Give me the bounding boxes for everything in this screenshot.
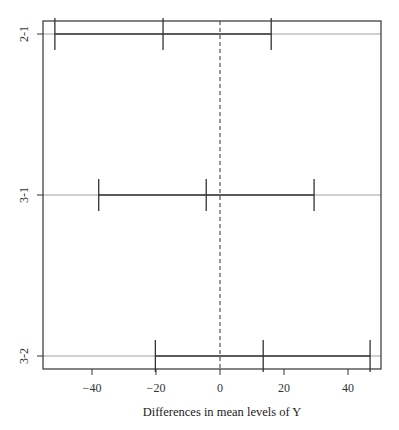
interval-3-2 — [155, 340, 370, 372]
x-axis: −40−2002040 — [83, 369, 354, 395]
y-axis: 2-13-13-2 — [17, 26, 43, 364]
x-axis-title: Differences in mean levels of Y — [143, 405, 302, 419]
x-tick-label: −40 — [83, 381, 102, 395]
y-tick-label: 3-1 — [17, 187, 31, 203]
interval-2-1 — [55, 18, 271, 50]
x-tick-label: −20 — [147, 381, 166, 395]
tukey-interval-chart: −40−2002040 2-13-13-2 Differences in mea… — [0, 0, 399, 430]
y-tick-label: 2-1 — [17, 26, 31, 42]
interval-3-1 — [99, 179, 314, 211]
x-tick-label: 0 — [217, 381, 223, 395]
y-tick-label: 3-2 — [17, 348, 31, 364]
x-tick-label: 20 — [278, 381, 290, 395]
x-tick-label: 40 — [342, 381, 354, 395]
